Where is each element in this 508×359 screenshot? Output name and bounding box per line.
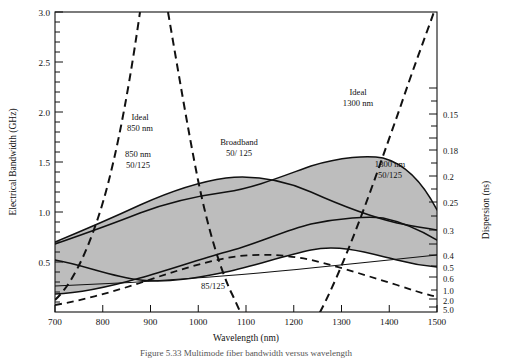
x-tick-label-1000: 1000: [189, 317, 208, 327]
annotation-850-50125-line1: 850 nm: [125, 149, 151, 159]
y2-tick-label-0-18: 0.18: [443, 146, 458, 156]
x-tick-label-1300: 1300: [332, 317, 351, 327]
y-tick-label-2-0: 2.0: [39, 108, 51, 118]
y-tick-label-0-5: 0.5: [39, 258, 51, 268]
annotation-broadband-line1: Broadband: [220, 137, 258, 147]
annotation-ideal-850-line2: 850 nm: [127, 123, 153, 133]
y2-tick-label-0-3: 0.3: [443, 226, 454, 236]
x-tick-label-1200: 1200: [285, 317, 304, 327]
annotation-85-125: 85/125: [201, 281, 225, 291]
figure-container: 3.0 2.5 2.0 1.5 1.0 0.5 Electrical Bandw…: [0, 0, 508, 359]
x-tick-label-800: 800: [96, 317, 110, 327]
y2-tick-label-0-15: 0.15: [443, 110, 458, 120]
figure-caption: Figure 5.33 Multimode fiber bandwidth ve…: [140, 348, 353, 358]
y-tick-label-3-0: 3.0: [39, 8, 51, 18]
y2-tick-label-1-0: 1.0: [443, 286, 454, 296]
y2-tick-label-0-2: 0.2: [443, 172, 454, 182]
y2-axis-title: Dispersion (ns): [481, 181, 492, 239]
annotation-1300-50125-line2: 50/125: [378, 170, 402, 180]
annotation-850-50125-line2: 50/125: [126, 160, 150, 170]
x-tick-label-700: 700: [48, 317, 62, 327]
annotation-ideal-1300-line1: Ideal: [349, 87, 367, 97]
x-tick-label-1400: 1400: [380, 317, 399, 327]
y-tick-label-1-0: 1.0: [39, 208, 51, 218]
y-tick-label-1-5: 1.5: [39, 158, 51, 168]
x-axis-title: Wavelength (nm): [213, 333, 279, 344]
annotation-ideal-1300-line2: 1300 nm: [343, 98, 374, 108]
y-axis-title: Electrical Bandwidth (GHz): [8, 108, 19, 215]
x-tick-label-1500: 1500: [428, 317, 447, 327]
y2-tick-label-5-0: 5.0: [443, 305, 454, 315]
annotation-ideal-850-line1: Ideal: [131, 112, 149, 122]
y-tick-label-2-5: 2.5: [39, 58, 51, 68]
x-tick-label-1100: 1100: [237, 317, 255, 327]
bandwidth-vs-wavelength-chart: 3.0 2.5 2.0 1.5 1.0 0.5 Electrical Bandw…: [0, 0, 508, 359]
y2-tick-label-0-6: 0.6: [443, 274, 454, 284]
y2-tick-label-0-4: 0.4: [443, 251, 454, 261]
annotation-1300-50125-line1: 1300 nm: [375, 159, 406, 169]
x-tick-label-900: 900: [144, 317, 158, 327]
annotation-broadband-line2: 50/ 125: [226, 148, 252, 158]
y2-tick-label-0-5: 0.5: [443, 263, 454, 273]
y2-tick-label-0-25: 0.25: [443, 198, 458, 208]
